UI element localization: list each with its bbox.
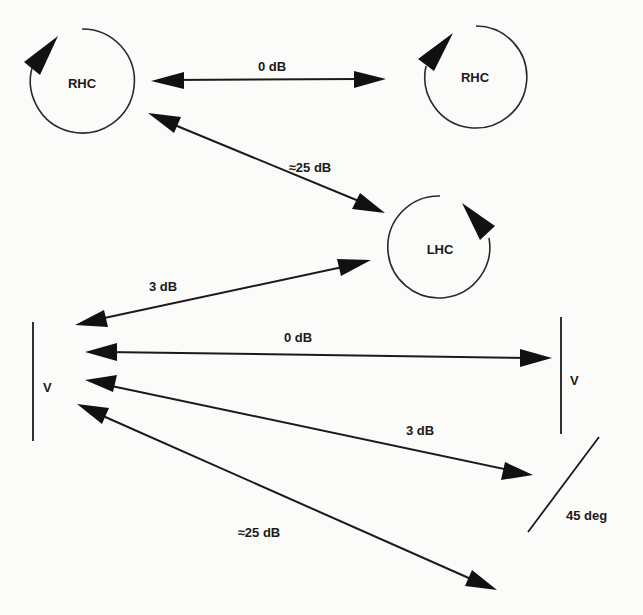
arrowhead-right-icon (354, 71, 386, 88)
v-left-label: V (43, 380, 52, 395)
slant45-node: 45 deg (528, 437, 607, 532)
arrowhead-lower-right-icon (352, 193, 385, 213)
rhc-right-node: RHC (418, 26, 527, 128)
lhc-node: LHC (388, 196, 495, 298)
edge-v-45: 3 dB (85, 375, 533, 480)
lhc-label: LHC (427, 242, 454, 257)
edge-label: 3 dB (406, 423, 434, 438)
arrowhead-left-icon (85, 343, 117, 361)
arrowhead-left-icon (75, 310, 108, 327)
arrow-line (102, 384, 514, 471)
rhc-left-label: RHC (68, 76, 97, 91)
rhc-left-node: RHC (24, 29, 134, 133)
rhc-left-rotation-arrow-icon (24, 36, 58, 75)
arrowhead-left-icon (151, 72, 184, 89)
v-left-node: V (33, 322, 52, 441)
arrowhead-right-icon (501, 462, 533, 480)
slant45-label: 45 deg (566, 508, 607, 523)
edge-rhc-rhc: 0 dB (151, 59, 386, 89)
polarization-loss-diagram: RHC RHC LHC V V 45 deg 0 dB ≈25 dB (0, 0, 643, 615)
edge-v-lhc: 3 dB (75, 259, 371, 327)
edge-v-v: 0 dB (85, 330, 552, 367)
arrowhead-left-icon (85, 375, 117, 392)
rhc-right-label: RHC (461, 70, 490, 85)
arrowhead-right-icon (337, 259, 371, 276)
edge-rhc-lhc: ≈25 dB (148, 113, 385, 213)
edge-label: ≈25 dB (238, 525, 281, 540)
arrowhead-right-icon (520, 349, 552, 367)
arrow-line (170, 79, 360, 80)
arrowhead-upper-left-icon (148, 113, 181, 133)
v-right-label: V (570, 373, 579, 388)
arrowhead-upper-left-icon (77, 404, 109, 424)
v-right-node: V (561, 317, 579, 434)
arrowhead-lower-right-icon (465, 570, 497, 590)
rhc-right-rotation-arrow-icon (418, 33, 453, 71)
arrow-line (105, 352, 532, 358)
edge-label: 3 dB (149, 279, 177, 294)
lhc-rotation-arrow-icon (462, 203, 495, 240)
edge-label: 0 dB (284, 330, 312, 345)
edge-label: 0 dB (258, 59, 286, 74)
arrow-line (95, 265, 352, 320)
edge-label: ≈25 dB (289, 160, 332, 175)
arrow-line (165, 121, 366, 204)
